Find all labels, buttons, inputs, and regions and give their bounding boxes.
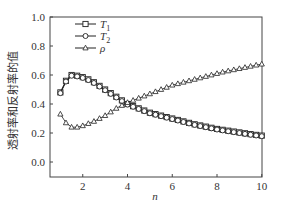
plot-frame bbox=[50, 17, 262, 177]
y-axis-label: 透射率和反射率的值 bbox=[6, 51, 20, 150]
y-tick-label: 0.4 bbox=[31, 98, 45, 110]
legend-item-ρ: ρ bbox=[75, 42, 105, 54]
x-tick-label: 10 bbox=[256, 180, 268, 192]
y-axis-label-text: 透射率和反射率的值 bbox=[6, 51, 20, 150]
x-tick-label: 2 bbox=[80, 180, 86, 192]
x-axis-label: n bbox=[152, 190, 158, 202]
y-tick-label: 0.8 bbox=[31, 40, 45, 52]
y-tick-label: 1.0 bbox=[31, 11, 45, 23]
data-series bbox=[58, 61, 265, 138]
legend-label: ρ bbox=[99, 42, 105, 54]
x-tick-label: 4 bbox=[125, 180, 131, 192]
x-tick-label: 6 bbox=[170, 180, 176, 192]
y-tick-label: 0.6 bbox=[31, 69, 45, 81]
y-tick-label: 0.2 bbox=[31, 127, 45, 139]
x-tick-label: 8 bbox=[214, 180, 220, 192]
chart: 透射率和反射率的值 0.00.20.40.60.81.0 246810 n T1… bbox=[0, 0, 281, 213]
legend: T1T2ρ bbox=[75, 18, 110, 54]
y-tick-label: 0.0 bbox=[31, 156, 45, 168]
